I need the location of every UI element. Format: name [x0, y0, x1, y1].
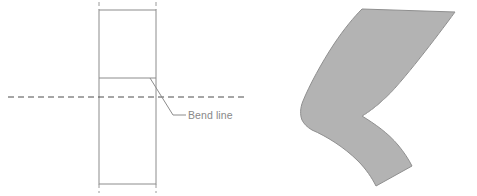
bend-line-label: Bend line: [188, 109, 233, 121]
flat-blank-rectangle: [99, 10, 156, 184]
bend-line-figure: Bend line: [0, 0, 477, 196]
